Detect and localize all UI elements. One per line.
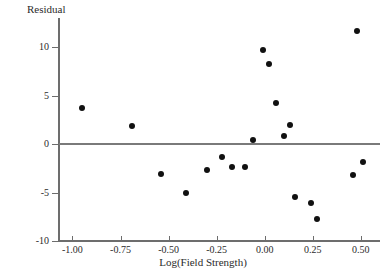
- y-axis-title: Residual: [27, 3, 66, 16]
- data-point: [350, 172, 356, 178]
- y-tick: [52, 193, 59, 194]
- data-point: [292, 194, 298, 200]
- y-tick-label: -10: [17, 235, 49, 246]
- data-point: [260, 47, 266, 53]
- x-tick-label: 0.50: [338, 244, 384, 255]
- x-tick-label: -1.00: [49, 244, 95, 255]
- data-point: [229, 164, 235, 170]
- x-tick-label: -0.50: [146, 244, 192, 255]
- data-point: [129, 123, 135, 129]
- y-tick-label: -5: [17, 187, 49, 198]
- data-point: [308, 200, 314, 206]
- x-axis-line: [58, 240, 380, 242]
- x-axis-title: Log(Field Strength): [0, 256, 384, 269]
- y-tick: [52, 144, 59, 145]
- data-point: [266, 61, 272, 67]
- data-point: [314, 216, 320, 222]
- y-axis-line: [58, 18, 60, 242]
- x-tick-label: 0.25: [290, 244, 336, 255]
- data-point: [219, 154, 225, 160]
- x-tick-label: 0.00: [242, 244, 288, 255]
- x-tick: [169, 236, 170, 241]
- x-tick: [121, 236, 122, 241]
- x-tick: [265, 236, 266, 241]
- x-tick-label: -0.25: [194, 244, 240, 255]
- data-point: [281, 133, 287, 139]
- data-point: [360, 159, 366, 165]
- data-point: [158, 171, 164, 177]
- x-tick: [72, 236, 73, 241]
- y-tick-label: 10: [17, 41, 49, 52]
- data-point: [273, 100, 279, 106]
- y-tick-label: 0: [17, 138, 49, 149]
- y-tick-label: 5: [17, 90, 49, 101]
- data-point: [287, 122, 293, 128]
- x-tick-label: -0.75: [98, 244, 144, 255]
- y-tick: [52, 96, 59, 97]
- data-point: [354, 28, 360, 34]
- data-point: [183, 190, 189, 196]
- residual-scatter-plot: Residual -10-50510 -1.00-0.75-0.50-0.250…: [0, 0, 384, 272]
- y-tick: [52, 47, 59, 48]
- data-point: [242, 164, 248, 170]
- zero-reference-line: [59, 143, 380, 145]
- data-point: [204, 167, 210, 173]
- x-tick: [217, 236, 218, 241]
- x-tick: [361, 236, 362, 241]
- data-point: [79, 105, 85, 111]
- y-tick: [52, 241, 59, 242]
- x-tick: [313, 236, 314, 241]
